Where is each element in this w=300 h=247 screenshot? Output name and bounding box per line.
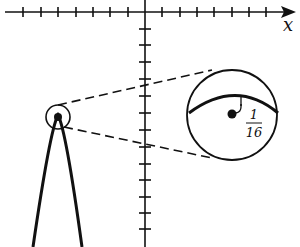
magnified-vertex-point	[228, 110, 237, 119]
gap-label-numerator: 1	[250, 107, 258, 122]
gap-label-denominator: 16	[246, 125, 263, 140]
x-axis	[5, 7, 288, 17]
magnified-view: 1 16	[187, 70, 278, 160]
vertex-point	[54, 113, 62, 121]
y-axis	[139, 0, 151, 247]
parabola-curve	[33, 115, 82, 247]
diagram-canvas: x 1 16	[0, 0, 300, 247]
x-axis-label: x	[283, 14, 293, 35]
